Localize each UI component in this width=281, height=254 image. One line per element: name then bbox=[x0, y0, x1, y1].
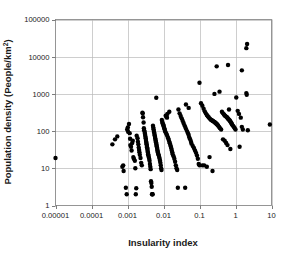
data-point bbox=[225, 143, 229, 147]
data-point bbox=[141, 111, 145, 115]
data-point bbox=[159, 168, 163, 172]
data-point bbox=[127, 131, 131, 135]
data-point bbox=[197, 81, 201, 85]
data-point bbox=[245, 42, 249, 46]
data-point bbox=[148, 167, 152, 171]
data-point bbox=[176, 186, 180, 190]
y-tick-label: 1 bbox=[45, 201, 49, 210]
data-point bbox=[184, 102, 188, 106]
data-point bbox=[227, 107, 231, 111]
data-point bbox=[233, 127, 237, 131]
y-axis-title-base: Population density (People/km bbox=[2, 46, 13, 184]
data-point bbox=[186, 106, 190, 110]
data-point bbox=[245, 93, 249, 97]
data-point bbox=[124, 186, 128, 190]
figure-container: 0.000010.00010.0010.010.1110 11010010001… bbox=[0, 0, 281, 254]
data-point bbox=[129, 145, 133, 149]
y-axis-title-group: Population density (People/km2) bbox=[2, 39, 13, 184]
data-point bbox=[125, 192, 129, 196]
data-point bbox=[138, 156, 142, 160]
data-point bbox=[234, 95, 238, 99]
data-point bbox=[167, 110, 171, 114]
data-point bbox=[240, 68, 244, 72]
data-point bbox=[141, 120, 145, 124]
data-point bbox=[183, 186, 187, 190]
data-point bbox=[237, 145, 241, 149]
data-point bbox=[121, 169, 125, 173]
data-point bbox=[129, 148, 133, 152]
x-tick-label: 0.1 bbox=[194, 211, 205, 220]
scatter-chart: 0.000010.00010.0010.010.1110 11010010001… bbox=[0, 0, 281, 254]
data-point bbox=[237, 112, 241, 116]
data-point bbox=[53, 156, 57, 160]
x-axis-title: Insularity index bbox=[128, 237, 198, 248]
y-tick-label: 10 bbox=[41, 164, 49, 173]
data-point bbox=[154, 96, 158, 100]
y-tick-label: 10000 bbox=[28, 53, 49, 62]
data-point bbox=[141, 115, 145, 119]
data-point bbox=[239, 115, 243, 119]
data-point bbox=[205, 165, 209, 169]
data-point bbox=[175, 168, 179, 172]
data-point bbox=[228, 147, 232, 151]
x-tick-label: 0.0001 bbox=[80, 211, 103, 220]
data-point bbox=[133, 166, 137, 170]
data-point bbox=[134, 192, 138, 196]
data-point bbox=[134, 186, 138, 190]
data-point bbox=[131, 139, 135, 143]
data-point bbox=[140, 163, 144, 167]
data-point bbox=[217, 89, 221, 93]
y-tick-label: 100000 bbox=[24, 15, 49, 24]
x-tick-label: 0.01 bbox=[156, 211, 171, 220]
data-point bbox=[127, 122, 131, 126]
data-point bbox=[150, 192, 154, 196]
y-tick-label: 1000 bbox=[33, 90, 50, 99]
data-point bbox=[241, 127, 245, 131]
x-tick-label: 0.00001 bbox=[42, 211, 69, 220]
x-tick-label: 1 bbox=[233, 211, 237, 220]
data-point bbox=[210, 169, 214, 173]
data-point bbox=[207, 155, 211, 159]
x-tick-label: 0.001 bbox=[118, 211, 137, 220]
x-tick-label: 10 bbox=[267, 211, 275, 220]
data-point bbox=[212, 92, 216, 96]
data-point bbox=[150, 185, 154, 189]
data-point bbox=[244, 46, 248, 50]
y-axis-title-tail: ) bbox=[2, 39, 13, 42]
data-point bbox=[246, 128, 250, 132]
data-point bbox=[176, 107, 180, 111]
data-point bbox=[121, 163, 125, 167]
data-point bbox=[196, 157, 200, 161]
data-point bbox=[110, 142, 114, 146]
data-point bbox=[268, 122, 272, 126]
data-point bbox=[219, 127, 223, 131]
data-point bbox=[226, 63, 230, 67]
data-point bbox=[115, 134, 119, 138]
data-point bbox=[133, 159, 137, 163]
data-point bbox=[214, 64, 218, 68]
y-axis-title: Population density (People/km2) bbox=[2, 39, 13, 184]
y-tick-label: 100 bbox=[37, 127, 50, 136]
data-point bbox=[165, 115, 169, 119]
